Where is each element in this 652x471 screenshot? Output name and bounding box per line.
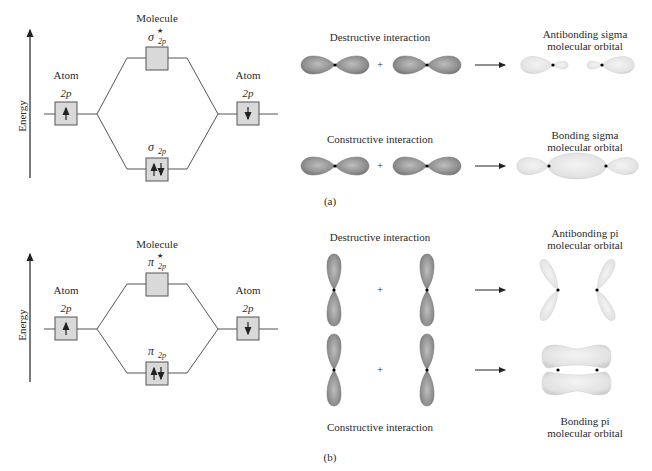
star-icon: ★ xyxy=(157,252,163,260)
correlation-line xyxy=(77,284,146,329)
correlation-line xyxy=(168,114,218,169)
p-orbital-horizontal xyxy=(301,56,369,74)
bonding-pi-orbital xyxy=(542,345,611,395)
bonding-pi-box xyxy=(146,362,168,385)
sigma-subscript: 2p xyxy=(158,147,166,156)
right-atom-orbital-label: 2p xyxy=(243,87,255,99)
p-orbital-horizontal xyxy=(393,157,461,175)
correlation-line xyxy=(97,329,146,373)
antibonding-sigma-title-line1: Antibonding sigma xyxy=(543,28,628,40)
panel-b-caption: (b) xyxy=(324,451,337,464)
plus-sign: + xyxy=(377,160,383,171)
right-atom-orbital-label: 2p xyxy=(243,302,255,314)
sigma-symbol: σ xyxy=(148,140,155,154)
p-orbital-vertical xyxy=(327,334,341,406)
antibonding-sigma-orbital xyxy=(587,56,635,73)
pi-symbol: π xyxy=(148,344,155,358)
destructive-interaction-label: Destructive interaction xyxy=(330,31,431,43)
left-atom-label: Atom xyxy=(53,69,79,81)
correlation-line xyxy=(77,58,146,114)
antibonding-pi-title-line2: molecular orbital xyxy=(547,239,622,251)
mo-diagram: Energy Molecule Atom 2p Atom 2p σ 2p ★ σ… xyxy=(0,0,652,471)
bonding-sigma-box xyxy=(146,158,168,181)
pi-subscript: 2p xyxy=(158,351,166,360)
correlation-line xyxy=(168,58,237,114)
left-atom-orbital-label: 2p xyxy=(61,302,73,314)
bonding-sigma-title-line1: Bonding sigma xyxy=(552,129,619,141)
pi-star-symbol: π xyxy=(148,255,155,269)
antibonding-sigma-orbital xyxy=(521,56,569,73)
p-orbital-horizontal xyxy=(393,56,461,74)
molecule-label: Molecule xyxy=(136,238,178,250)
bonding-sigma-orbital xyxy=(517,153,639,179)
antibonding-pi-box xyxy=(146,273,168,296)
correlation-line xyxy=(168,284,237,329)
left-atom-orbital-label: 2p xyxy=(61,87,73,99)
p-orbital-vertical xyxy=(327,254,341,326)
star-icon: ★ xyxy=(157,27,163,35)
destructive-interaction-label: Destructive interaction xyxy=(330,231,431,243)
bonding-pi-title-line1: Bonding pi xyxy=(560,415,609,427)
pi-star-subscript: 2p xyxy=(158,262,166,271)
left-atom-label: Atom xyxy=(53,284,79,296)
panel-a-caption: (a) xyxy=(324,195,337,208)
plus-sign: + xyxy=(377,59,383,70)
plus-sign: + xyxy=(377,364,383,375)
panel-a-energy-diagram: Energy Molecule Atom 2p Atom 2p σ 2p ★ σ… xyxy=(16,12,278,181)
constructive-interaction-label: Constructive interaction xyxy=(327,133,433,145)
correlation-line xyxy=(97,114,146,169)
bonding-pi-title-line2: molecular orbital xyxy=(547,427,622,439)
panel-b-energy-diagram: Energy Molecule Atom 2p Atom 2p π 2p ★ π… xyxy=(16,238,278,385)
right-atom-label: Atom xyxy=(235,284,261,296)
correlation-line xyxy=(168,329,218,373)
antibonding-sigma-title-line2: molecular orbital xyxy=(547,40,622,52)
antibonding-pi-title-line1: Antibonding pi xyxy=(552,227,619,239)
panel-a-orbital-interactions: Destructive interaction Antibonding sigm… xyxy=(301,28,638,208)
sigma-star-symbol: σ xyxy=(148,30,155,44)
right-atom-label: Atom xyxy=(235,69,261,81)
energy-axis-label: Energy xyxy=(16,309,28,341)
constructive-interaction-label: Constructive interaction xyxy=(327,421,433,433)
energy-axis-label: Energy xyxy=(16,100,28,132)
antibonding-pi-orbital xyxy=(537,257,617,322)
sigma-star-subscript: 2p xyxy=(158,37,166,46)
p-orbital-vertical xyxy=(420,334,434,406)
panel-b-orbital-interactions: Destructive interaction Antibonding pi m… xyxy=(324,227,623,464)
molecule-label: Molecule xyxy=(136,12,178,24)
p-orbital-vertical xyxy=(420,254,434,326)
plus-sign: + xyxy=(377,284,383,295)
p-orbital-horizontal xyxy=(301,157,369,175)
bonding-sigma-title-line2: molecular orbital xyxy=(547,141,622,153)
antibonding-sigma-box xyxy=(146,47,168,70)
